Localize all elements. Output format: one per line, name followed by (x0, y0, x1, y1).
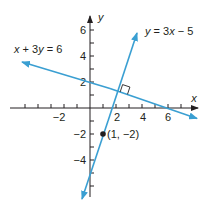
point-label: (1, −2) (107, 128, 139, 140)
y-tick-label: −4 (73, 154, 86, 166)
coordinate-plane: −2 2 4 6 x 6 4 2 −2 −4 y y (0, 0, 208, 204)
line1-label: y = 3x − 5 (144, 25, 193, 37)
x-tick-label: −2 (53, 111, 66, 123)
x-axis: −2 2 4 6 x (10, 92, 198, 123)
x-tick-label: 6 (165, 111, 171, 123)
y-tick-label: 2 (80, 76, 86, 88)
y-axis: 6 4 2 −2 −4 y (73, 11, 105, 197)
x-tick-label: 4 (140, 111, 146, 123)
y-tick-label: 4 (80, 50, 86, 62)
line2-label: x + 3y = 6 (13, 43, 62, 55)
x-tick-label: 2 (114, 111, 120, 123)
y-tick-label: −2 (73, 128, 86, 140)
y-tick-label: 6 (80, 24, 86, 36)
y-axis-label: y (97, 11, 105, 23)
point-1-neg2 (100, 131, 106, 137)
line-x-plus-3y-equals-6: x + 3y = 6 (13, 43, 197, 119)
x-axis-label: x (190, 92, 197, 104)
